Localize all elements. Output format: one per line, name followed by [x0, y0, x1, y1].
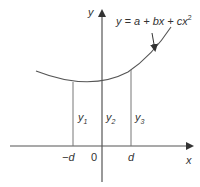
tick-neg-d: −d — [62, 151, 75, 163]
equation-pointer-arrow — [152, 33, 155, 50]
parabola-diagram: y = a + bx + cx2 y x y1 y2 y3 −d 0 d — [0, 0, 200, 187]
y-axis-label: y — [87, 6, 95, 18]
tick-pos-d: d — [128, 151, 135, 163]
tick-zero: 0 — [91, 151, 97, 163]
y2-label: y2 — [105, 111, 116, 125]
equation-label: y = a + bx + cx2 — [115, 14, 192, 27]
y1-label: y1 — [77, 111, 88, 125]
parabola-curve — [36, 27, 171, 82]
x-axis-label: x — [185, 154, 192, 166]
y3-label: y3 — [134, 111, 145, 125]
